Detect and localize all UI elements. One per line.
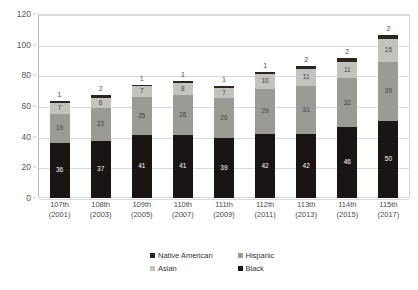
- bar-segment-asian[interactable]: 7: [132, 86, 152, 97]
- bar-segment-asian[interactable]: 10: [255, 74, 275, 89]
- chart-legend: Native AmericanHispanicAsianBlack: [150, 252, 325, 277]
- bar-segment-value: 7: [58, 105, 62, 112]
- y-tick-mark: [33, 75, 36, 76]
- legend-label: Native American: [158, 252, 213, 260]
- bars-layer: 1719362622371725411826411726391102942211…: [39, 14, 409, 198]
- legend-item-black[interactable]: Black: [238, 265, 326, 273]
- bar-segment-value: 41: [138, 163, 145, 170]
- bar-segment-asian[interactable]: 7: [214, 88, 234, 99]
- x-tick-label: 109th(2005): [121, 200, 162, 220]
- x-tick-congress: 115th: [368, 200, 409, 210]
- bar-segment-hispanic[interactable]: 31: [296, 86, 316, 134]
- bar-segment-value: 39: [220, 165, 227, 172]
- bar-segment-asian[interactable]: 11: [296, 69, 316, 86]
- legend-label: Black: [246, 265, 264, 273]
- legend-swatch-icon: [150, 253, 155, 258]
- bar-slot: 2153950: [368, 14, 409, 198]
- bar-segment-asian[interactable]: 15: [378, 39, 398, 62]
- bar-segment-value: 26: [179, 112, 186, 119]
- bar-segment-value: 15: [385, 47, 392, 54]
- bar-segment-black[interactable]: 39: [214, 138, 234, 198]
- bar-stack[interactable]: 2113142: [296, 66, 316, 198]
- bar-top-value-label: 2: [345, 48, 349, 55]
- bar-segment-black[interactable]: 41: [173, 135, 193, 198]
- y-tick-mark: [33, 106, 36, 107]
- y-tick-mark: [33, 44, 36, 45]
- x-axis: 107th(2001)108th(2003)109th(2005)110th(2…: [39, 200, 409, 220]
- x-tick-year: (2017): [368, 210, 409, 220]
- bar-segment-asian[interactable]: 8: [173, 83, 193, 95]
- bar-segment-value: 11: [303, 74, 310, 81]
- bar-segment-value: 50: [385, 156, 392, 163]
- bar-top-value-label: 2: [386, 25, 390, 32]
- bar-stack[interactable]: 171936: [50, 101, 70, 198]
- bar-segment-value: 37: [97, 166, 104, 173]
- bar-segment-value: 39: [385, 88, 392, 95]
- legend-swatch-icon: [238, 253, 243, 258]
- bar-stack[interactable]: 182641: [173, 81, 193, 198]
- bar-segment-hispanic[interactable]: 39: [378, 62, 398, 122]
- bar-segment-hispanic[interactable]: 19: [50, 114, 70, 143]
- bar-segment-hispanic[interactable]: 26: [214, 98, 234, 138]
- bar-segment-black[interactable]: 41: [132, 135, 152, 198]
- bar-segment-value: 26: [220, 115, 227, 122]
- bar-segment-black[interactable]: 42: [296, 134, 316, 198]
- bar-segment-value: 8: [181, 86, 185, 93]
- bar-segment-black[interactable]: 36: [50, 143, 70, 198]
- y-tick-mark: [33, 136, 36, 137]
- x-tick-year: (2003): [80, 210, 121, 220]
- x-tick-label: 108th(2003): [80, 200, 121, 220]
- y-tick-label: 0: [26, 194, 31, 203]
- x-tick-label: 110th(2007): [162, 200, 203, 220]
- legend-swatch-icon: [150, 266, 155, 271]
- bar-slot: 182641: [162, 14, 203, 198]
- x-tick-year: (2001): [39, 210, 80, 220]
- bar-segment-hispanic[interactable]: 29: [255, 89, 275, 133]
- bar-segment-asian[interactable]: 11: [337, 62, 357, 79]
- legend-item-asian[interactable]: Asian: [150, 265, 238, 273]
- x-tick-label: 107th(2001): [39, 200, 80, 220]
- bar-stack[interactable]: 2113246: [337, 58, 357, 198]
- y-tick-mark: [33, 198, 36, 199]
- legend-item-native-american[interactable]: Native American: [150, 252, 238, 260]
- y-tick-mark: [33, 14, 36, 15]
- bar-segment-hispanic[interactable]: 26: [173, 95, 193, 135]
- bar-top-value-label: 1: [263, 62, 267, 69]
- bar-segment-black[interactable]: 37: [91, 141, 111, 198]
- bar-segment-black[interactable]: 50: [378, 121, 398, 198]
- bar-segment-black[interactable]: 42: [255, 134, 275, 198]
- y-tick-label: 40: [22, 132, 31, 141]
- bar-stack[interactable]: 262237: [91, 95, 111, 198]
- x-tick-year: (2009): [203, 210, 244, 220]
- legend-label: Asian: [158, 265, 177, 273]
- x-tick-congress: 107th: [39, 200, 80, 210]
- bar-top-value-label: 2: [304, 56, 308, 63]
- bar-slot: 171936: [39, 14, 80, 198]
- bar-segment-value: 42: [261, 163, 268, 170]
- bar-stack[interactable]: 2153950: [378, 35, 398, 198]
- bar-segment-hispanic[interactable]: 25: [132, 97, 152, 135]
- bar-segment-asian[interactable]: 7: [50, 103, 70, 114]
- bar-slot: 172639: [203, 14, 244, 198]
- bar-segment-value: 32: [344, 100, 351, 107]
- bar-stack[interactable]: 172541: [132, 85, 152, 198]
- y-tick-mark: [33, 167, 36, 168]
- y-tick-label: 120: [17, 10, 31, 19]
- bar-stack[interactable]: 1102942: [255, 72, 275, 198]
- x-tick-year: (2015): [327, 210, 368, 220]
- bar-segment-hispanic[interactable]: 32: [337, 78, 357, 127]
- x-tick-label: 115th(2017): [368, 200, 409, 220]
- bar-segment-black[interactable]: 46: [337, 127, 357, 198]
- bar-segment-value: 31: [303, 107, 310, 114]
- bar-stack[interactable]: 172639: [214, 86, 234, 198]
- bar-segment-hispanic[interactable]: 22: [91, 108, 111, 142]
- legend-item-hispanic[interactable]: Hispanic: [238, 252, 326, 260]
- bar-top-value-label: 1: [181, 71, 185, 78]
- x-tick-year: (2013): [286, 210, 327, 220]
- x-tick-congress: 111th: [203, 200, 244, 210]
- x-tick-label: 113th(2013): [286, 200, 327, 220]
- bar-segment-asian[interactable]: 6: [91, 98, 111, 107]
- bar-segment-value: 11: [344, 67, 351, 74]
- y-tick-label: 20: [22, 163, 31, 172]
- bar-top-value-label: 1: [222, 76, 226, 83]
